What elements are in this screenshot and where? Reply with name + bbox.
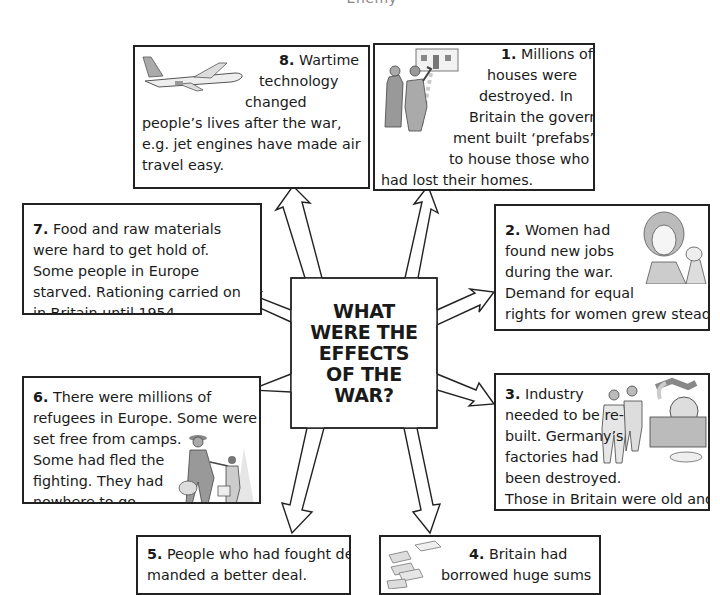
woman-raising-fist-icon [636, 210, 708, 284]
box-line: during the war. [505, 262, 613, 283]
box-line: had lost their homes. [381, 170, 533, 191]
box-line: factories had [505, 447, 599, 468]
effect-box-4: 4. Britain had borrowed huge sums [379, 535, 601, 595]
box-number: 7. [33, 221, 48, 237]
box-number: 3. [505, 386, 520, 402]
box-line: Some people in Europe [33, 261, 199, 282]
box-number: 6. [33, 389, 48, 405]
arrow-to-box-8 [276, 186, 322, 278]
box-line: Demand for equal [505, 283, 634, 304]
box-line: after the war. [505, 325, 601, 331]
box-line: houses were [487, 65, 577, 86]
box-line: worn out. [505, 510, 573, 511]
effect-box-7: 7. Food and raw materials were hard to g… [22, 203, 262, 315]
box-number: 2. [505, 222, 520, 238]
box-line: to house those who [449, 149, 589, 170]
box-line: changed [245, 92, 307, 113]
effect-box-2: 2. Women had found new jobs during the w… [494, 204, 710, 331]
box-line: e.g. jet engines have made air [142, 134, 361, 155]
box-line: refugees in Europe. Some were [33, 408, 257, 429]
men-and-prefab-house-icon [381, 47, 461, 137]
box-line: were hard to get hold of. [33, 240, 209, 261]
box-line: Those in Britain were old and [505, 489, 710, 510]
arrow-to-box-3 [437, 374, 494, 406]
center-line: WAR? [310, 385, 418, 406]
box-line: rights for women grew steadily [505, 304, 710, 325]
box-line: borrowed huge sums [441, 565, 591, 586]
box-line: starved. Rationing carried on [33, 282, 241, 303]
box-line: found new jobs [505, 241, 614, 262]
effect-box-1: 1. Millions of houses were destroyed. In… [373, 43, 595, 191]
box-number: 4. [469, 546, 484, 562]
box-line: set free from camps. [33, 429, 182, 450]
arrow-to-box-4 [404, 428, 440, 533]
box-line: fighting. They had [33, 471, 163, 492]
box-number: 8. [279, 52, 294, 68]
box-line: Some had fled the [33, 450, 164, 471]
effect-box-5: 5. People who had fought de- manded a be… [136, 535, 351, 595]
center-line: WHAT [310, 301, 418, 322]
box-number: 1. [501, 46, 516, 62]
box-number: 5. [147, 546, 162, 562]
arrow-to-box-1 [405, 186, 438, 278]
center-line: OF THE [310, 364, 418, 385]
arrow-to-box-5 [282, 428, 324, 533]
box-line: people’s lives after the war, [142, 113, 341, 134]
central-question: WHAT WERE THE EFFECTS OF THE WAR? [291, 278, 437, 428]
effect-box-6: 6. There were millions of refugees in Eu… [22, 376, 261, 504]
effect-box-8: 8. Wartime technology changed people’s l… [133, 45, 370, 189]
box-line: built. Germany’s [505, 426, 623, 447]
box-line: needed to be re- [505, 405, 624, 426]
box-line: destroyed. In [479, 86, 573, 107]
center-line: WERE THE [310, 322, 418, 343]
box-line: ment built ‘prefabs’ [453, 128, 594, 149]
box-line: manded a better deal. [147, 565, 307, 586]
center-line: EFFECTS [310, 343, 418, 364]
box-line: been destroyed. [505, 468, 621, 489]
box-line: technology [259, 71, 338, 92]
refugees-icon [174, 428, 260, 504]
box-line: in Britain until 1954. [33, 303, 179, 315]
arrow-to-box-2 [437, 289, 494, 325]
box-line: nowhere to go. [33, 492, 140, 504]
box-line: Britain the govern- [469, 107, 595, 128]
box-line: travel easy. [142, 155, 224, 176]
jet-airliner-icon [139, 51, 251, 93]
effect-box-3: 3. Industry needed to be re- built. Germ… [494, 373, 710, 511]
